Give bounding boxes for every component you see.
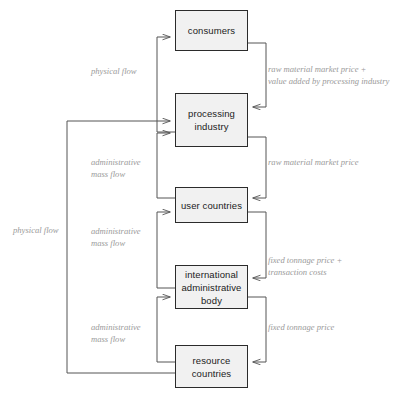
edge-label-fixed-tonnage-price-plus-transaction-costs: fixed tonnage price + transaction costs — [268, 255, 413, 278]
node-resource-countries-label: resource countries — [190, 354, 233, 380]
connector-consumers-to-processing-payment — [248, 43, 266, 107]
node-processing-industry[interactable]: processing industry — [175, 93, 248, 147]
node-processing-industry-label: processing industry — [186, 107, 237, 133]
connector-processing-to-user-countries-payment — [248, 137, 266, 198]
connector-user-countries-to-body-payment — [248, 212, 266, 278]
node-international-administrative-body[interactable]: international administrative body — [175, 265, 248, 309]
node-user-countries-label: user countries — [179, 199, 244, 212]
edge-label-administrative-mass-flow-3: administrative mass flow — [91, 322, 171, 345]
edge-label-physical-flow-top: physical flow — [91, 66, 171, 78]
node-resource-countries[interactable]: resource countries — [175, 345, 248, 388]
edge-label-administrative-mass-flow-2: administrative mass flow — [91, 226, 171, 249]
connector-body-to-user-countries-admin — [157, 212, 175, 288]
node-consumers-label: consumers — [186, 24, 237, 37]
node-user-countries[interactable]: user countries — [175, 187, 248, 223]
connector-body-to-resource-payment — [248, 297, 266, 362]
connector-processing-to-consumers — [157, 37, 175, 132]
node-international-administrative-body-label: international administrative body — [179, 268, 243, 307]
node-consumers[interactable]: consumers — [175, 10, 248, 51]
edge-label-raw-material-market-price: raw material market price — [268, 157, 413, 169]
edge-label-administrative-mass-flow-1: administrative mass flow — [91, 157, 171, 180]
edge-label-physical-flow-left: physical flow — [13, 225, 75, 237]
edge-label-raw-material-market-price-plus-value-added: raw material market price + value added … — [268, 64, 418, 87]
edge-label-fixed-tonnage-price: fixed tonnage price — [268, 322, 413, 334]
flow-diagram: consumers processing industry user count… — [0, 0, 419, 398]
